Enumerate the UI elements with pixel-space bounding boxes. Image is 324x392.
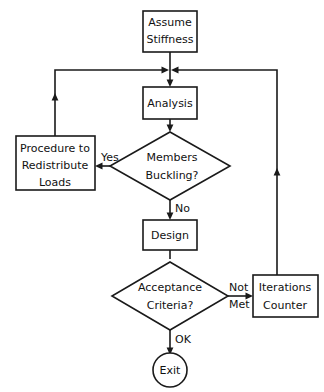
arrowhead-right-riser-up bbox=[274, 168, 281, 176]
iterations-counter-label-line1: Iterations bbox=[259, 281, 312, 294]
edge-buckling-no bbox=[167, 200, 174, 220]
edge-label-not-met-line1: Not bbox=[229, 281, 249, 294]
procedure-redistribute-label-line3: Loads bbox=[39, 176, 71, 189]
edge-analysis-to-buckling bbox=[167, 119, 174, 132]
node-members-buckling[interactable]: Members Buckling? bbox=[110, 132, 230, 200]
edge-acceptance-ok bbox=[167, 330, 174, 355]
iterations-counter-label-line2: Counter bbox=[263, 299, 307, 312]
node-iterations-counter[interactable]: Iterations Counter bbox=[253, 275, 318, 317]
node-assume-stiffness[interactable]: Assume Stiffness bbox=[143, 11, 197, 52]
analysis-label: Analysis bbox=[147, 97, 193, 110]
edge-label-not-met-line2: Met bbox=[229, 298, 250, 311]
assume-stiffness-label-line2: Stiffness bbox=[146, 33, 193, 46]
edge-label-ok: OK bbox=[175, 333, 192, 346]
node-design[interactable]: Design bbox=[143, 220, 197, 250]
members-buckling-diamond[interactable] bbox=[110, 132, 230, 200]
exit-label: Exit bbox=[160, 364, 182, 377]
acceptance-criteria-label-line2: Criteria? bbox=[147, 299, 194, 312]
acceptance-criteria-diamond[interactable] bbox=[112, 262, 228, 330]
arrowhead-into-design bbox=[167, 213, 174, 221]
members-buckling-label-line1: Members bbox=[147, 151, 198, 164]
procedure-redistribute-label-line2: Redistribute bbox=[22, 159, 89, 172]
flowchart-svg: Assume Stiffness Analysis Members Buckli… bbox=[0, 0, 324, 392]
arrowhead-left-riser-up bbox=[52, 93, 59, 101]
design-label: Design bbox=[151, 229, 189, 242]
assume-stiffness-label-line1: Assume bbox=[148, 16, 192, 29]
arrowhead-into-analysis bbox=[167, 80, 174, 88]
arrowhead-into-buckling bbox=[167, 125, 174, 133]
edge-label-no: No bbox=[175, 202, 190, 215]
arrowhead-right-feedback-into-junction bbox=[171, 67, 179, 74]
flowchart-canvas: Assume Stiffness Analysis Members Buckli… bbox=[0, 0, 324, 392]
members-buckling-label-line2: Buckling? bbox=[146, 169, 199, 182]
acceptance-criteria-label-line1: Acceptance bbox=[138, 281, 202, 294]
node-analysis[interactable]: Analysis bbox=[143, 87, 197, 119]
node-exit[interactable]: Exit bbox=[153, 353, 187, 387]
node-procedure-redistribute[interactable]: Procedure to Redistribute Loads bbox=[16, 136, 95, 190]
procedure-redistribute-label-line1: Procedure to bbox=[20, 142, 90, 155]
node-acceptance-criteria[interactable]: Acceptance Criteria? bbox=[112, 262, 228, 330]
edge-label-yes: Yes bbox=[100, 151, 119, 164]
arrowhead-left-feedback-into-junction bbox=[162, 67, 170, 74]
